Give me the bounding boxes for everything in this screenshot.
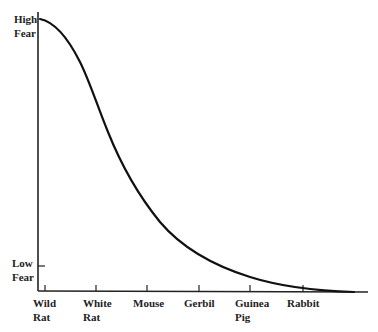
y-label-high-line1: High: [14, 12, 37, 26]
x-label-line1: Gerbil: [184, 296, 215, 310]
x-label-gerbil: Gerbil: [184, 296, 215, 310]
x-label-line1: Mouse: [133, 296, 164, 310]
x-label-line1: White: [83, 296, 112, 310]
y-label-low: Low Fear: [12, 256, 34, 284]
fear-curve: [40, 19, 354, 292]
y-label-low-line1: Low: [12, 256, 34, 270]
x-label-rabbit: Rabbit: [287, 296, 319, 310]
y-label-low-line2: Fear: [12, 270, 34, 284]
x-label-line2: Rat: [83, 310, 112, 324]
x-label-line2: Rat: [33, 310, 56, 324]
x-label-mouse: Mouse: [133, 296, 164, 310]
x-label-line2: Pig: [235, 310, 269, 324]
y-label-high: High Fear: [14, 12, 37, 40]
x-label-line1: Rabbit: [287, 296, 319, 310]
x-label-white-rat: White Rat: [83, 296, 112, 324]
x-label-line1: Guinea: [235, 296, 269, 310]
x-axis: [38, 291, 368, 292]
x-label-line1: Wild: [33, 296, 56, 310]
fear-curve-chart: [0, 0, 378, 332]
y-label-high-line2: Fear: [14, 26, 37, 40]
x-label-guinea-pig: Guinea Pig: [235, 296, 269, 324]
x-label-wild-rat: Wild Rat: [33, 296, 56, 324]
